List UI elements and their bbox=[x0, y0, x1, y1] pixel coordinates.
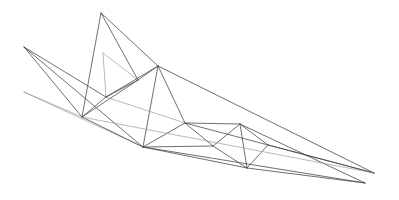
wireframe-canvas bbox=[0, 0, 399, 200]
figure-background bbox=[0, 0, 399, 200]
wireframe-figure bbox=[0, 0, 399, 200]
